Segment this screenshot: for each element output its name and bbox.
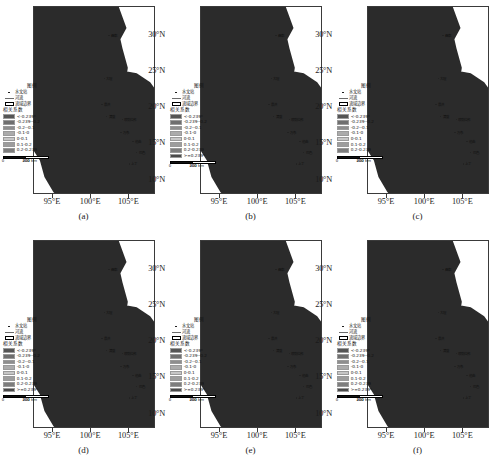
legend-boundary-icon bbox=[3, 102, 15, 106]
city-label: 万象 bbox=[290, 130, 296, 135]
legend-station: 水文站 bbox=[337, 90, 395, 95]
legend-class-label: 0.2-0.239 bbox=[17, 382, 37, 386]
panel-caption-d: (d) bbox=[0, 445, 167, 455]
x-axis-tick-mark bbox=[386, 194, 387, 198]
y-axis-tick-label: 25°N bbox=[148, 66, 165, 75]
hydrological-station-marker bbox=[296, 397, 297, 398]
hydrological-station-marker bbox=[454, 366, 455, 367]
legend-boundary: 流域边界 bbox=[337, 335, 395, 340]
y-axis-tick-label: 15°N bbox=[315, 372, 332, 381]
legend-class-label: 0.2-0.239 bbox=[184, 148, 204, 152]
legend-class-row: 0.2-0.239 bbox=[337, 148, 395, 154]
city-label: 景洪 bbox=[438, 336, 444, 341]
legend-color-swatch bbox=[337, 114, 349, 119]
legend-class-row: >=0.239* bbox=[170, 387, 228, 393]
city-label: 琅勃拉邦 bbox=[124, 351, 136, 356]
legend-river-label: 河流 bbox=[15, 96, 23, 100]
city-label: 大理 bbox=[273, 310, 279, 315]
hydrological-station-marker bbox=[456, 353, 457, 354]
legend-river: 河流 bbox=[3, 330, 61, 335]
map-panel-d: 30°N25°N20°N15°N10°N95°E100°E105°E昌都大理景洪… bbox=[0, 234, 167, 468]
legend-class-label: 0.2-0.239 bbox=[351, 148, 371, 152]
y-axis-tick-label: 20°N bbox=[148, 336, 165, 345]
legend-river-label: 河流 bbox=[182, 330, 190, 334]
city-label: 大理 bbox=[106, 310, 112, 315]
legend-c: 图例水文站河流流域边界相关系数<-0.239*-0.239--0.2-0.2--… bbox=[337, 84, 395, 164]
legend-station-icon bbox=[170, 326, 182, 328]
scale-bar-tick-label: 400 km bbox=[189, 164, 203, 168]
scale-bar: 0200400 km bbox=[3, 156, 49, 164]
legend-boundary: 流域边界 bbox=[170, 335, 228, 340]
legend-color-swatch bbox=[170, 382, 182, 387]
x-axis-tick-mark bbox=[462, 194, 463, 198]
legend-river: 河流 bbox=[3, 96, 61, 101]
legend-station-icon bbox=[337, 92, 349, 94]
city-label: 万象 bbox=[290, 364, 296, 369]
city-label: 清盛 bbox=[443, 114, 449, 119]
hydrological-station-marker bbox=[129, 163, 130, 164]
x-axis-tick-label: 105°E bbox=[452, 197, 473, 206]
hydrological-station-marker bbox=[438, 78, 439, 79]
x-axis-tick-label: 105°E bbox=[285, 197, 306, 206]
x-axis-tick-label: 95°E bbox=[378, 431, 395, 440]
legend-color-swatch bbox=[337, 120, 349, 125]
legend-river-label: 河流 bbox=[182, 96, 190, 100]
city-label: 景洪 bbox=[438, 102, 444, 107]
hydrological-station-marker bbox=[435, 104, 436, 105]
legend-color-swatch bbox=[3, 376, 15, 381]
city-label: 昌都 bbox=[278, 267, 284, 272]
legend-class-label: 0-0.1 bbox=[184, 137, 195, 141]
legend-color-swatch bbox=[3, 142, 15, 147]
city-label: 大理 bbox=[106, 76, 112, 81]
legend-river-label: 河流 bbox=[349, 96, 357, 100]
scale-bar: 0200400 km bbox=[170, 161, 216, 169]
scale-bar-tick-label: 0 bbox=[2, 159, 4, 163]
hydrological-station-marker bbox=[268, 104, 269, 105]
legend-color-swatch bbox=[3, 388, 15, 393]
scale-bar: 0200400 km bbox=[170, 395, 216, 403]
city-label: 万象 bbox=[123, 130, 129, 135]
panel-caption-c: (c) bbox=[334, 211, 501, 221]
legend-a: 图例水文站河流流域边界相关系数<-0.239*-0.239--0.2-0.2--… bbox=[3, 84, 61, 164]
hydrological-station-marker bbox=[289, 119, 290, 120]
city-label: 景洪 bbox=[271, 102, 277, 107]
city-label: 巴色 bbox=[306, 384, 312, 389]
x-axis-tick-mark bbox=[52, 428, 53, 432]
x-axis-tick-label: 100°E bbox=[80, 197, 101, 206]
city-label: 他曲 bbox=[302, 139, 308, 144]
legend-color-swatch bbox=[3, 120, 15, 125]
legend-title: 图例 bbox=[3, 84, 61, 89]
legend-class-label: >=0.239* bbox=[351, 388, 372, 392]
legend-boundary-label: 流域边界 bbox=[15, 336, 31, 340]
x-axis-tick-mark bbox=[219, 428, 220, 432]
legend-color-swatch bbox=[337, 354, 349, 359]
x-axis-tick-label: 100°E bbox=[247, 197, 268, 206]
x-axis-tick-mark bbox=[90, 194, 91, 198]
legend-color-swatch bbox=[337, 371, 349, 376]
legend-river: 河流 bbox=[337, 330, 395, 335]
legend-boundary-label: 流域边界 bbox=[349, 336, 365, 340]
hydrological-station-marker bbox=[122, 353, 123, 354]
x-axis-tick-label: 100°E bbox=[80, 431, 101, 440]
x-axis-tick-label: 95°E bbox=[44, 197, 61, 206]
y-axis-tick-label: 20°N bbox=[315, 102, 332, 111]
legend-class-label: 0-0.1 bbox=[184, 371, 195, 375]
y-axis-tick-label: 15°N bbox=[148, 138, 165, 147]
city-label: 昌都 bbox=[278, 33, 284, 38]
city-label: 大理 bbox=[440, 76, 446, 81]
legend-scale-title: 相关系数 bbox=[170, 108, 228, 113]
legend-color-swatch bbox=[3, 348, 15, 353]
x-axis-tick-mark bbox=[424, 194, 425, 198]
x-axis-tick-mark bbox=[90, 428, 91, 432]
legend-color-swatch bbox=[337, 348, 349, 353]
legend-color-swatch bbox=[337, 382, 349, 387]
legend-color-swatch bbox=[3, 360, 15, 365]
y-axis-tick-label: 10°N bbox=[315, 409, 332, 418]
legend-f: 图例水文站河流流域边界相关系数<-0.239*-0.239--0.2-0.2--… bbox=[337, 318, 395, 403]
city-label: 昌都 bbox=[445, 33, 451, 38]
legend-color-swatch bbox=[170, 114, 182, 119]
city-label: 巴色 bbox=[139, 150, 145, 155]
hydrological-station-marker bbox=[438, 312, 439, 313]
city-label: 昌都 bbox=[111, 33, 117, 38]
panel-caption-f: (f) bbox=[334, 445, 501, 455]
